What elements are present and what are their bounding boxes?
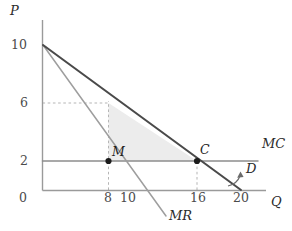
demand-pointer-arrowhead — [237, 172, 243, 178]
marginal-revenue-label: MR — [169, 209, 192, 222]
monopoly-deadweight-loss-figure: P Q 10 6 2 0 8 10 16 20 M C MC D MR — [0, 0, 292, 231]
demand-line — [43, 45, 241, 190]
x-tick-label-8: 8 — [104, 192, 112, 205]
point-c-label: C — [200, 144, 210, 157]
y-tick-label-6: 6 — [20, 97, 28, 110]
x-tick-label-20: 20 — [233, 192, 249, 205]
point-m-dot — [105, 158, 111, 164]
x-tick-label-10: 10 — [120, 192, 136, 205]
point-m-label: M — [112, 146, 125, 159]
y-tick-label-10: 10 — [11, 39, 27, 52]
x-axis-label: Q — [271, 195, 282, 208]
y-tick-label-2: 2 — [20, 155, 28, 168]
point-c-dot — [194, 158, 200, 164]
y-axis-label: P — [10, 4, 19, 17]
demand-label: D — [246, 162, 256, 175]
marginal-cost-label: MC — [262, 137, 285, 150]
origin-label: 0 — [19, 192, 27, 205]
x-tick-label-16: 16 — [190, 192, 206, 205]
